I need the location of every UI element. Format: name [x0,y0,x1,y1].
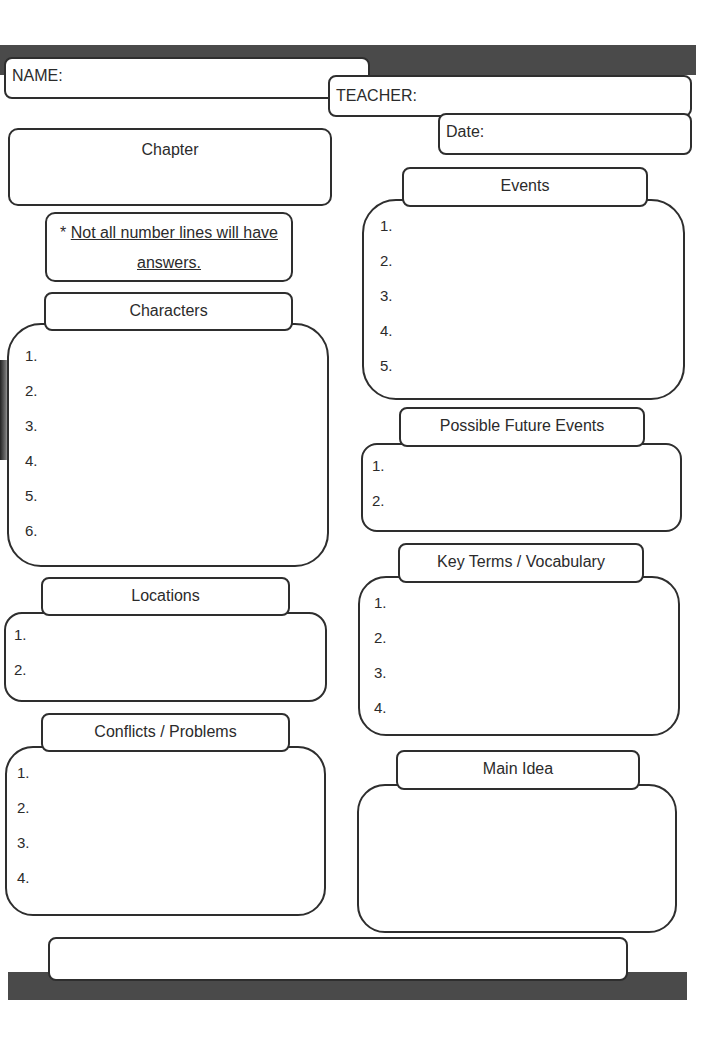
vocabulary-panel[interactable]: 1. 2. 3. 4. [358,576,680,736]
teacher-field[interactable]: TEACHER: [328,75,692,117]
conflicts-panel[interactable]: 1. 2. 3. 4. [5,746,326,916]
conflicts-list: 1. 2. 3. 4. [17,762,30,902]
events-header: Events [402,167,648,207]
list-item: 1. [17,762,30,797]
list-item: 2. [25,380,38,415]
future-events-list: 1. 2. [372,455,385,525]
instruction-note: * Not all number lines will have answers… [45,212,293,282]
list-item: 2. [380,250,393,285]
date-label: Date: [446,123,484,140]
list-item: 4. [17,867,30,902]
note-line2: answers. [137,254,201,271]
list-item: 3. [374,662,387,697]
list-item: 3. [17,832,30,867]
list-item: 5. [25,485,38,520]
list-item: 2. [374,627,387,662]
locations-header: Locations [41,577,290,616]
vocabulary-title: Key Terms / Vocabulary [437,553,605,570]
events-title: Events [501,177,550,194]
list-item: 5. [380,355,393,390]
characters-panel[interactable]: 1. 2. 3. 4. 5. 6. [7,323,329,567]
vocabulary-header: Key Terms / Vocabulary [398,543,644,583]
main-idea-title: Main Idea [483,760,553,777]
list-item: 1. [380,215,393,250]
list-item: 3. [380,285,393,320]
characters-title: Characters [129,302,207,319]
note-line1: Not all number lines will have [71,224,278,241]
chapter-field[interactable]: Chapter [8,128,332,206]
locations-panel[interactable]: 1. 2. [4,612,327,702]
list-item: 1. [374,592,387,627]
future-events-title: Possible Future Events [440,417,605,434]
list-item: 4. [374,697,387,732]
list-item: 4. [25,450,38,485]
teacher-label: TEACHER: [336,87,417,104]
main-idea-header: Main Idea [396,750,640,790]
list-item: 6. [25,520,38,555]
locations-title: Locations [131,587,200,604]
conflicts-title: Conflicts / Problems [94,723,236,740]
vocabulary-list: 1. 2. 3. 4. [374,592,387,732]
conflicts-header: Conflicts / Problems [41,713,290,752]
list-item: 2. [17,797,30,832]
list-item: 2. [14,659,27,694]
list-item: 1. [372,455,385,490]
events-list: 1. 2. 3. 4. 5. [380,215,393,390]
date-field[interactable]: Date: [438,113,692,155]
characters-header: Characters [44,292,293,331]
bottom-answer-field[interactable] [48,937,628,981]
future-events-panel[interactable]: 1. 2. [361,443,682,532]
future-events-header: Possible Future Events [399,407,645,447]
locations-list: 1. 2. [14,624,27,694]
list-item: 1. [25,345,38,380]
list-item: 3. [25,415,38,450]
events-panel[interactable]: 1. 2. 3. 4. 5. [362,199,685,400]
list-item: 2. [372,490,385,525]
main-idea-panel[interactable] [357,784,677,933]
chapter-label: Chapter [142,141,199,158]
characters-list: 1. 2. 3. 4. 5. 6. [25,345,38,555]
list-item: 4. [380,320,393,355]
list-item: 1. [14,624,27,659]
name-label: NAME: [12,67,63,84]
name-field[interactable]: NAME: [4,57,370,99]
note-asterisk: * [60,224,71,241]
